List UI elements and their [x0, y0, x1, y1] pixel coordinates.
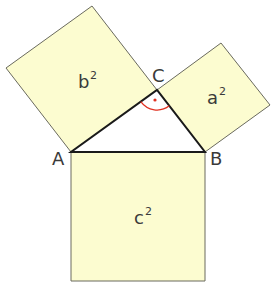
right-angle-dot [153, 98, 156, 101]
vertex-label-c: C [152, 65, 165, 86]
square-label-b2-base: b [78, 71, 89, 92]
square-label-c2-exponent: 2 [145, 205, 152, 218]
vertex-label-a: A [52, 148, 65, 169]
square-label-c2-base: c [134, 207, 144, 228]
square-label-a2-base: a [207, 87, 218, 108]
vertex-label-b: B [210, 148, 222, 169]
pythagoras-diagram: A B C b 2 a 2 c 2 [0, 0, 276, 293]
square-label-a2-exponent: 2 [219, 85, 226, 98]
square-label-b2-exponent: 2 [90, 69, 97, 82]
